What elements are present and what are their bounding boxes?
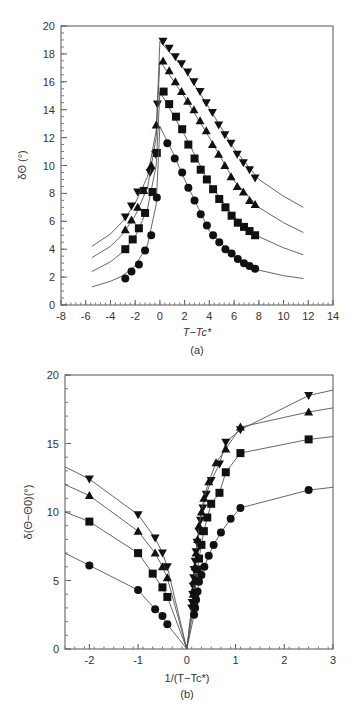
up-triangle-marker <box>221 444 230 452</box>
square-marker <box>141 209 149 217</box>
y-tick-label: 8 <box>49 187 55 199</box>
y-axis-title: δ(Θ−Θ0)(°) <box>22 485 34 540</box>
down-triangle-marker <box>151 535 160 543</box>
circle-marker <box>153 194 161 202</box>
x-tick-label: -8 <box>56 310 66 322</box>
up-triangle-right-line <box>187 408 333 649</box>
square-marker <box>209 185 217 193</box>
figure: -8-6-4-20246810121402468101214161820T−Tc… <box>0 0 359 713</box>
circle-marker <box>158 612 166 620</box>
down-triangle-marker <box>227 140 236 148</box>
down-triangle-marker <box>85 476 94 484</box>
square-marker <box>251 231 259 239</box>
y-tick-label: 2 <box>49 271 55 283</box>
circle-marker <box>151 605 159 613</box>
square-marker <box>85 518 93 526</box>
circle-marker <box>236 504 244 512</box>
y-tick-label: 0 <box>53 643 59 655</box>
down-triangle-marker <box>233 151 242 159</box>
circle-marker <box>141 247 149 255</box>
plot-frame <box>61 26 333 305</box>
square-marker <box>215 195 223 203</box>
down-triangle-marker <box>177 60 186 68</box>
down-triangle-marker <box>245 166 254 174</box>
square-marker <box>163 593 171 601</box>
circle-marker <box>163 620 171 628</box>
down-triangle-marker <box>134 511 143 519</box>
y-tick-label: 12 <box>43 132 55 144</box>
y-tick-label: 14 <box>43 104 55 116</box>
square-right-line <box>187 437 333 649</box>
down-triangle-marker <box>183 69 192 77</box>
x-tick-label: -6 <box>81 310 91 322</box>
up-triangle-marker <box>147 161 156 169</box>
circle-marker <box>205 552 213 560</box>
x-tick-label: -2 <box>84 654 94 666</box>
square-marker <box>195 555 203 563</box>
y-tick-label: 18 <box>43 48 55 60</box>
down-triangle-marker <box>171 53 180 61</box>
square-marker <box>172 113 180 121</box>
chart-a: -8-6-4-20246810121402468101214161820T−Tc… <box>16 20 339 356</box>
circle-marker <box>209 231 217 239</box>
x-tick-label: 2 <box>281 654 287 666</box>
x-axis-title: 1/(T−Tc*) <box>165 672 210 684</box>
circle-marker <box>197 571 205 579</box>
circle-marker <box>200 563 208 571</box>
up-triangle-marker <box>220 161 229 169</box>
circle-marker <box>121 274 129 282</box>
circle-marker <box>184 184 192 192</box>
x-tick-label: -2 <box>130 310 140 322</box>
x-tick-label: 12 <box>302 310 314 322</box>
square-marker <box>197 541 205 549</box>
square-marker <box>134 549 142 557</box>
x-tick-label: 0 <box>157 310 163 322</box>
square-marker <box>160 88 168 96</box>
square-marker <box>178 125 186 133</box>
x-tick-label: 0 <box>184 654 190 666</box>
down-triangle-marker <box>239 159 248 167</box>
circle-marker <box>135 261 143 269</box>
square-marker <box>203 175 211 183</box>
circle-marker <box>195 578 203 586</box>
up-triangle-marker <box>233 182 242 190</box>
down-triangle-marker <box>189 78 198 86</box>
circle-fit-curve <box>92 126 303 287</box>
square-marker <box>165 100 173 108</box>
y-tick-label: 10 <box>47 506 59 518</box>
square-marker <box>184 141 192 149</box>
square-marker <box>153 149 161 157</box>
y-tick-label: 0 <box>49 299 55 311</box>
y-tick-label: 4 <box>49 243 55 255</box>
circle-marker <box>215 238 223 246</box>
circle-marker <box>305 486 313 494</box>
square-marker <box>149 570 157 578</box>
circle-marker <box>127 268 135 276</box>
square-marker <box>197 166 205 174</box>
circle-marker <box>217 529 225 537</box>
square-marker <box>305 435 313 443</box>
x-axis-title: T−Tc* <box>183 326 212 338</box>
circle-marker <box>227 515 235 523</box>
y-tick-label: 20 <box>43 20 55 32</box>
square-marker <box>135 224 143 232</box>
x-tick-label: 1 <box>232 654 238 666</box>
up-triangle-marker <box>152 121 161 129</box>
circle-marker <box>192 596 200 604</box>
square-marker <box>221 203 229 211</box>
up-triangle-marker <box>134 527 143 535</box>
y-tick-label: 10 <box>43 160 55 172</box>
square-marker <box>203 513 211 521</box>
square-marker <box>236 449 244 457</box>
down-triangle-marker <box>121 214 130 222</box>
y-tick-label: 20 <box>47 369 59 381</box>
down-triangle-marker <box>196 88 205 96</box>
circle-marker <box>171 155 179 163</box>
square-marker <box>121 245 129 253</box>
circle-marker <box>134 586 142 594</box>
square-marker <box>129 235 137 243</box>
circle-marker <box>197 210 205 218</box>
x-tick-label: 10 <box>277 310 289 322</box>
square-marker <box>215 489 223 497</box>
x-tick-label: -1 <box>133 654 143 666</box>
